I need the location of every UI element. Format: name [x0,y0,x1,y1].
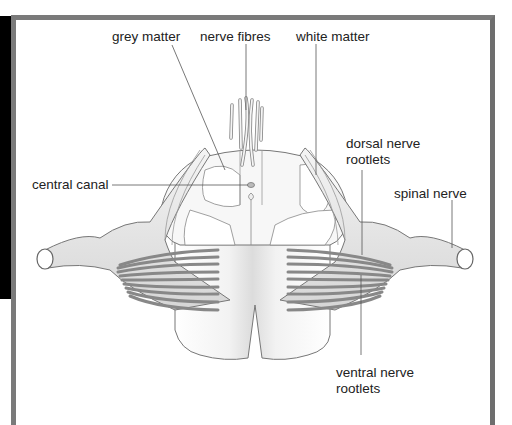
label-dorsal-nerve-rootlets-line2: rootlets [346,152,390,168]
left-nerve-end [37,249,53,269]
label-ventral-nerve-rootlets-line1: ventral nerve [336,365,414,381]
label-ventral-nerve-rootlets-line2: rootlets [336,381,380,397]
label-spinal-nerve: spinal nerve [394,186,467,202]
label-grey-matter: grey matter [112,29,180,45]
central-canal-marker [248,183,255,188]
label-central-canal: central canal [32,177,109,193]
label-nerve-fibres: nerve fibres [200,29,271,45]
label-dorsal-nerve-rootlets-line1: dorsal nerve [346,136,420,152]
right-nerve-end [457,249,473,269]
label-white-matter: white matter [296,29,370,45]
